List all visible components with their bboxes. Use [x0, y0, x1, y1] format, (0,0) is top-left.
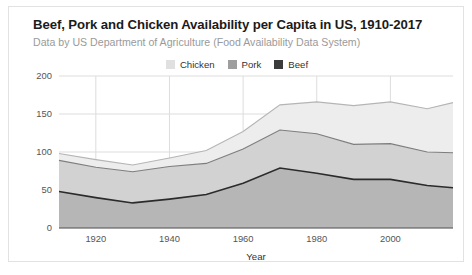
x-tick-1940: 1940 [159, 233, 180, 244]
x-axis-title: Year [246, 251, 266, 262]
screenshot-frame: Beef, Pork and Chicken Availability per … [0, 0, 472, 275]
plot-area-container: 050100150200 19201940196019802000 Year [9, 7, 465, 263]
x-tick-1980: 1980 [306, 233, 327, 244]
series-areas [59, 102, 453, 228]
x-axis-tick-labels: 19201940196019802000 [85, 233, 400, 244]
stacked-area-chart: 050100150200 19201940196019802000 Year [9, 7, 465, 263]
y-tick-0: 0 [47, 222, 52, 233]
y-tick-200: 200 [36, 70, 52, 81]
y-axis-tick-labels: 050100150200 [36, 70, 52, 233]
y-tick-100: 100 [36, 146, 52, 157]
x-tick-1960: 1960 [233, 233, 254, 244]
x-tick-1920: 1920 [85, 233, 106, 244]
x-tick-2000: 2000 [380, 233, 401, 244]
y-tick-50: 50 [42, 184, 52, 195]
y-tick-150: 150 [36, 108, 52, 119]
chart-card: Beef, Pork and Chicken Availability per … [8, 6, 464, 262]
